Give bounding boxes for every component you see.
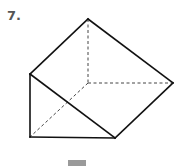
- edge-top-to-left-upper: [30, 19, 88, 74]
- triangular-prism-figure: [0, 0, 195, 166]
- edge-top-to-right: [88, 19, 173, 83]
- edge-bottom-left-to-bottom-right: [30, 137, 115, 138]
- visible-edges: [30, 19, 173, 138]
- edge-bottom-right-to-right: [115, 83, 173, 138]
- hidden-edge-back-to-bottom-left: [30, 83, 88, 137]
- edge-left-upper-to-bottom-right: [30, 74, 115, 138]
- answer-box: [68, 160, 86, 166]
- hidden-edges: [30, 19, 173, 137]
